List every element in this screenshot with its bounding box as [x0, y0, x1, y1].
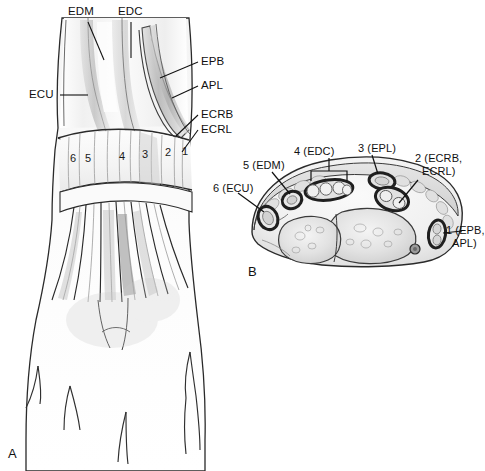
label-compartment-1-line2: APL): [452, 237, 477, 250]
label-epb: EPB: [201, 55, 224, 68]
radial-artery-vessel: [410, 244, 420, 254]
compartment-number-4: 4: [119, 150, 125, 162]
compartment-number-6: 6: [70, 152, 76, 164]
label-apl: APL: [201, 79, 223, 92]
label-edc: EDC: [118, 5, 143, 18]
label-ecu: ECU: [29, 88, 54, 101]
anatomy-figure: EDM EDC ECU EPB APL ECRB ECRL 6 5 4 3 2 …: [0, 0, 485, 471]
label-edm: EDM: [68, 5, 94, 18]
panel-a-artwork: [26, 18, 205, 471]
ulna-cross-section: [279, 216, 341, 263]
label-ecrl: ECRL: [201, 123, 232, 136]
panel-letter-b: B: [248, 264, 257, 279]
compartment-number-1: 1: [182, 145, 188, 157]
label-compartment-2-line1: 2 (ECRB,: [415, 152, 462, 165]
label-compartment-3: 3 (EPL): [358, 142, 396, 155]
compartment-number-3: 3: [142, 148, 148, 160]
label-compartment-1-line1: 1 (EPB,: [446, 224, 485, 237]
label-ecrb: ECRB: [201, 108, 233, 121]
panel-letter-a: A: [8, 446, 17, 461]
figure-artwork: [0, 0, 485, 471]
compartment-number-5: 5: [85, 152, 91, 164]
label-compartment-6: 6 (ECU): [213, 182, 253, 195]
label-compartment-4: 4 (EDC): [294, 145, 334, 158]
compartment-number-2: 2: [165, 146, 171, 158]
label-compartment-2-line2: ECRL): [422, 165, 456, 178]
label-compartment-5: 5 (EDM): [243, 159, 285, 172]
